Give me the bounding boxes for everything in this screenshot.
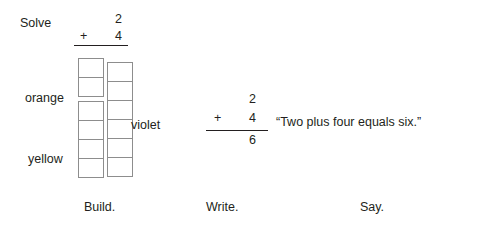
cube bbox=[78, 77, 104, 97]
solve-vertical-equation: 2 + 4 bbox=[70, 12, 128, 46]
spoken-sentence: “Two plus four equals six.” bbox=[276, 115, 421, 129]
write-addend1: 2 bbox=[249, 92, 256, 106]
write-addend2: 4 bbox=[249, 111, 256, 125]
write-row-addend2: + 4 bbox=[206, 111, 268, 130]
orange-group-label: orange bbox=[25, 91, 64, 105]
cube bbox=[78, 101, 104, 121]
violet-group-label: violet bbox=[131, 118, 160, 132]
cube bbox=[107, 119, 133, 139]
cube bbox=[78, 139, 104, 159]
write-vertical-equation: 2 + 4 6 bbox=[206, 92, 268, 130]
cube bbox=[107, 81, 133, 101]
write-operator: + bbox=[214, 111, 221, 125]
write-row-addend1: 2 bbox=[206, 92, 268, 111]
caption-say: Say. bbox=[360, 200, 384, 214]
cube bbox=[107, 138, 133, 158]
cube bbox=[107, 157, 133, 177]
yellow-group-label: yellow bbox=[28, 152, 63, 166]
solve-addend2: 4 bbox=[115, 29, 122, 43]
solve-row-addend2: + 4 bbox=[70, 29, 128, 46]
cube bbox=[107, 100, 133, 120]
cube bbox=[78, 120, 104, 140]
solve-row-addend1: 2 bbox=[70, 12, 128, 29]
solve-equation-rule bbox=[74, 45, 128, 46]
solve-label: Solve bbox=[20, 16, 51, 30]
solve-operator: + bbox=[80, 29, 87, 43]
write-equation-rule bbox=[206, 130, 268, 131]
cube bbox=[107, 62, 133, 82]
caption-write: Write. bbox=[206, 200, 238, 214]
cube bbox=[78, 158, 104, 178]
caption-build: Build. bbox=[84, 200, 115, 214]
write-sum: 6 bbox=[249, 133, 256, 147]
solve-addend1: 2 bbox=[115, 12, 122, 26]
cube bbox=[78, 58, 104, 78]
